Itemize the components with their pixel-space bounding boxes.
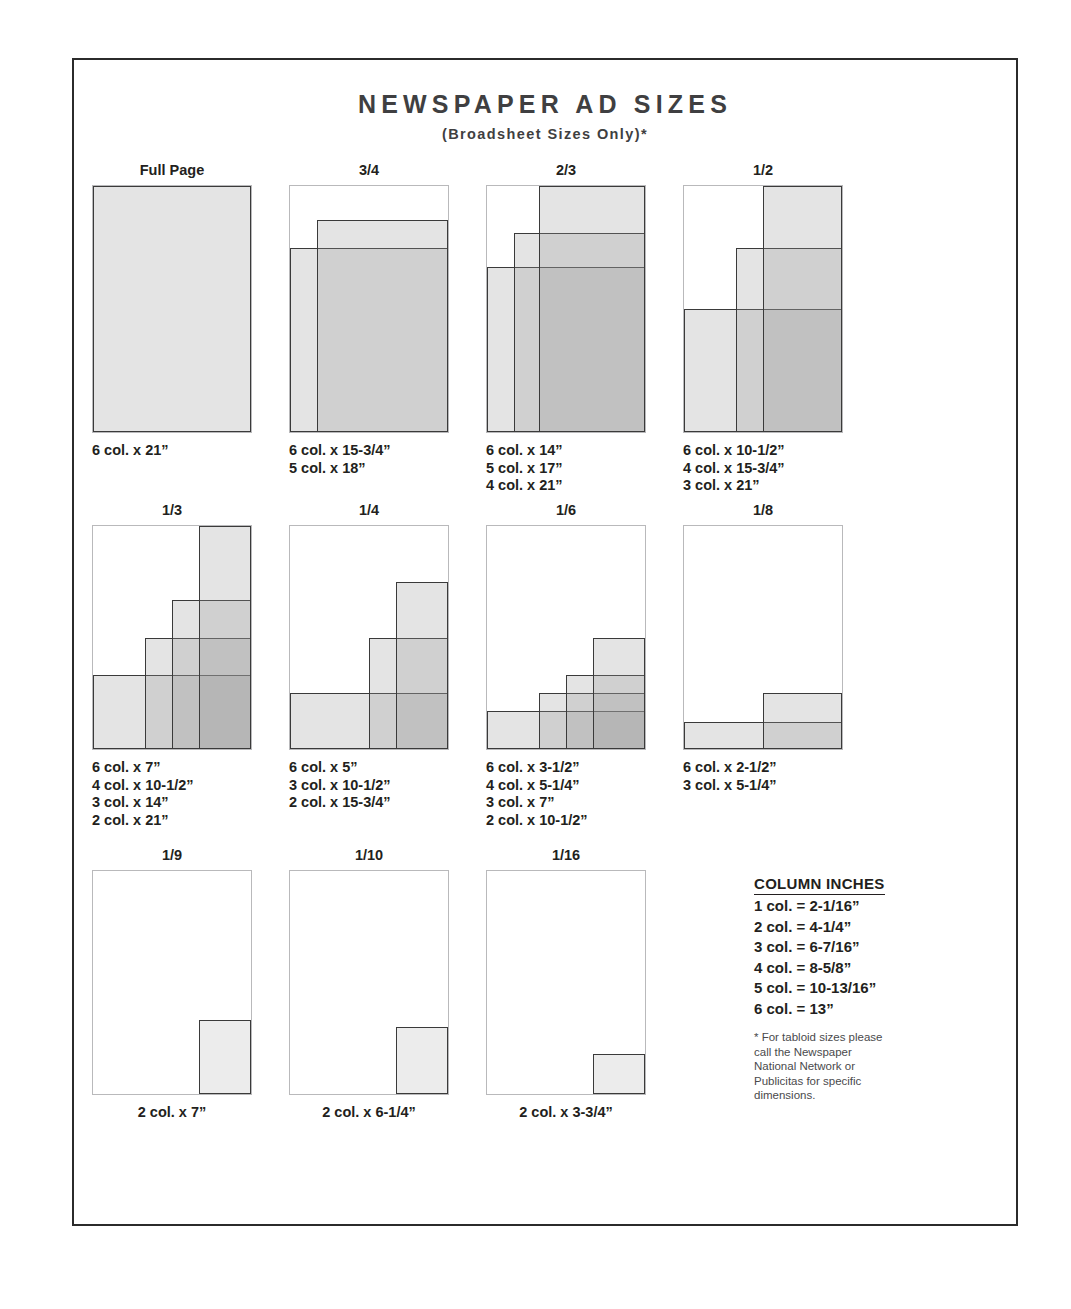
ad-rect <box>763 693 842 749</box>
ad-size-caption: 6 col. x 7” 4 col. x 10-1/2” 3 col. x 14… <box>92 759 252 829</box>
page-outline <box>486 185 646 433</box>
ad-rect <box>539 186 645 432</box>
ad-size-label: 1/4 <box>289 500 449 520</box>
ad-size-cell: 1/36 col. x 7” 4 col. x 10-1/2” 3 col. x… <box>92 500 252 829</box>
ad-size-cell: 1/102 col. x 6-1/4” <box>289 845 449 1122</box>
ad-rect <box>396 582 448 749</box>
ad-size-label: 1/9 <box>92 845 252 865</box>
ad-size-label: 1/6 <box>486 500 646 520</box>
ad-size-cell: 1/46 col. x 5” 3 col. x 10-1/2” 2 col. x… <box>289 500 449 812</box>
column-inches-legend: COLUMN INCHES 1 col. = 2-1/16”2 col. = 4… <box>754 875 984 1103</box>
legend-line: 4 col. = 8-5/8” <box>754 958 984 978</box>
ad-size-label: 3/4 <box>289 160 449 180</box>
ad-size-cell: 1/92 col. x 7” <box>92 845 252 1122</box>
ad-size-cell: 1/26 col. x 10-1/2” 4 col. x 15-3/4” 3 c… <box>683 160 843 495</box>
page-title: NEWSPAPER AD SIZES <box>74 90 1016 119</box>
poster-frame: NEWSPAPER AD SIZES (Broadsheet Sizes Onl… <box>72 58 1018 1226</box>
ad-size-caption: 6 col. x 21” <box>92 442 252 460</box>
ad-rect <box>93 186 251 432</box>
legend-line: 3 col. = 6-7/16” <box>754 937 984 957</box>
ad-size-label: 1/8 <box>683 500 843 520</box>
ad-size-cell: 1/66 col. x 3-1/2” 4 col. x 5-1/4” 3 col… <box>486 500 646 829</box>
ad-size-caption: 6 col. x 15-3/4” 5 col. x 18” <box>289 442 449 477</box>
ad-rect <box>396 1027 448 1094</box>
ad-size-caption: 2 col. x 6-1/4” <box>289 1104 449 1122</box>
ad-rect <box>199 526 251 749</box>
ad-size-caption: 6 col. x 14” 5 col. x 17” 4 col. x 21” <box>486 442 646 495</box>
ad-rect <box>593 638 645 750</box>
ad-size-cell: 2/36 col. x 14” 5 col. x 17” 4 col. x 21… <box>486 160 646 495</box>
legend-line: 5 col. = 10-13/16” <box>754 978 984 998</box>
page-outline <box>486 870 646 1095</box>
ad-size-label: 1/3 <box>92 500 252 520</box>
ad-rect <box>317 220 448 432</box>
ad-size-caption: 6 col. x 5” 3 col. x 10-1/2” 2 col. x 15… <box>289 759 449 812</box>
ad-size-label: 1/16 <box>486 845 646 865</box>
page-outline <box>683 185 843 433</box>
page-outline <box>92 525 252 750</box>
page-outline <box>289 185 449 433</box>
ad-size-cell: 1/86 col. x 2-1/2” 3 col. x 5-1/4” <box>683 500 843 794</box>
legend-line: 2 col. = 4-1/4” <box>754 917 984 937</box>
legend-line: 6 col. = 13” <box>754 999 984 1019</box>
ad-size-cell: 1/162 col. x 3-3/4” <box>486 845 646 1122</box>
ad-size-caption: 6 col. x 10-1/2” 4 col. x 15-3/4” 3 col.… <box>683 442 843 495</box>
legend-footnote: * For tabloid sizes please call the News… <box>754 1030 984 1103</box>
page-outline <box>289 870 449 1095</box>
page-outline <box>683 525 843 750</box>
legend-line: 1 col. = 2-1/16” <box>754 896 984 916</box>
legend-title: COLUMN INCHES <box>754 875 885 895</box>
ad-size-label: 1/10 <box>289 845 449 865</box>
legend-lines: 1 col. = 2-1/16”2 col. = 4-1/4”3 col. = … <box>754 896 984 1018</box>
ad-size-label: 2/3 <box>486 160 646 180</box>
ad-size-caption: 2 col. x 3-3/4” <box>486 1104 646 1122</box>
page-outline <box>92 185 252 433</box>
page-outline <box>486 525 646 750</box>
ad-size-caption: 6 col. x 2-1/2” 3 col. x 5-1/4” <box>683 759 843 794</box>
ad-size-cell: 3/46 col. x 15-3/4” 5 col. x 18” <box>289 160 449 477</box>
ad-rect <box>763 186 842 432</box>
ad-rect <box>199 1020 251 1094</box>
page-subtitle: (Broadsheet Sizes Only)* <box>74 126 1016 142</box>
ad-size-cell: Full Page6 col. x 21” <box>92 160 252 460</box>
ad-size-caption: 2 col. x 7” <box>92 1104 252 1122</box>
ad-size-label: Full Page <box>92 160 252 180</box>
ad-rect <box>593 1054 645 1094</box>
page-outline <box>92 870 252 1095</box>
page-outline <box>289 525 449 750</box>
title-block: NEWSPAPER AD SIZES (Broadsheet Sizes Onl… <box>74 90 1016 142</box>
ad-size-caption: 6 col. x 3-1/2” 4 col. x 5-1/4” 3 col. x… <box>486 759 646 829</box>
ad-size-label: 1/2 <box>683 160 843 180</box>
